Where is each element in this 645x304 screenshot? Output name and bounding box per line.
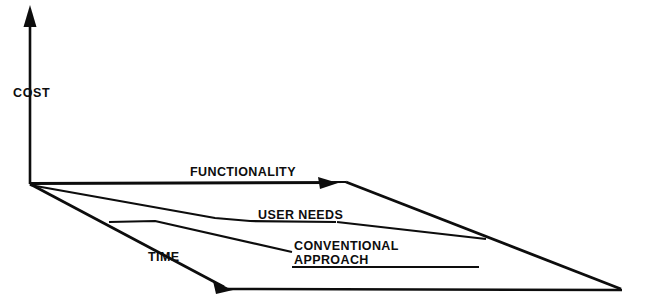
down-right-arrow-icon bbox=[213, 281, 233, 294]
plane-top-edge bbox=[30, 182, 346, 183]
plane-right-edge bbox=[346, 182, 621, 289]
diagram-canvas: COST FUNCTIONALITY USER NEEDS CONVENTION… bbox=[0, 0, 645, 304]
time-axis-line bbox=[30, 184, 224, 287]
curve-label-user-needs: USER NEEDS bbox=[258, 209, 343, 222]
curve-label-conventional: CONVENTIONAL bbox=[294, 240, 399, 253]
axis-label-cost: COST bbox=[13, 87, 50, 100]
conventional-approach-curve-left bbox=[109, 221, 292, 252]
user-needs-curve-right bbox=[337, 222, 486, 239]
axis-label-time: TIME bbox=[148, 251, 179, 264]
curve-label-approach: APPROACH bbox=[294, 254, 369, 267]
plane-bottom-edge bbox=[228, 289, 622, 290]
up-arrow-icon bbox=[24, 5, 37, 27]
axis-label-functionality: FUNCTIONALITY bbox=[190, 166, 296, 179]
